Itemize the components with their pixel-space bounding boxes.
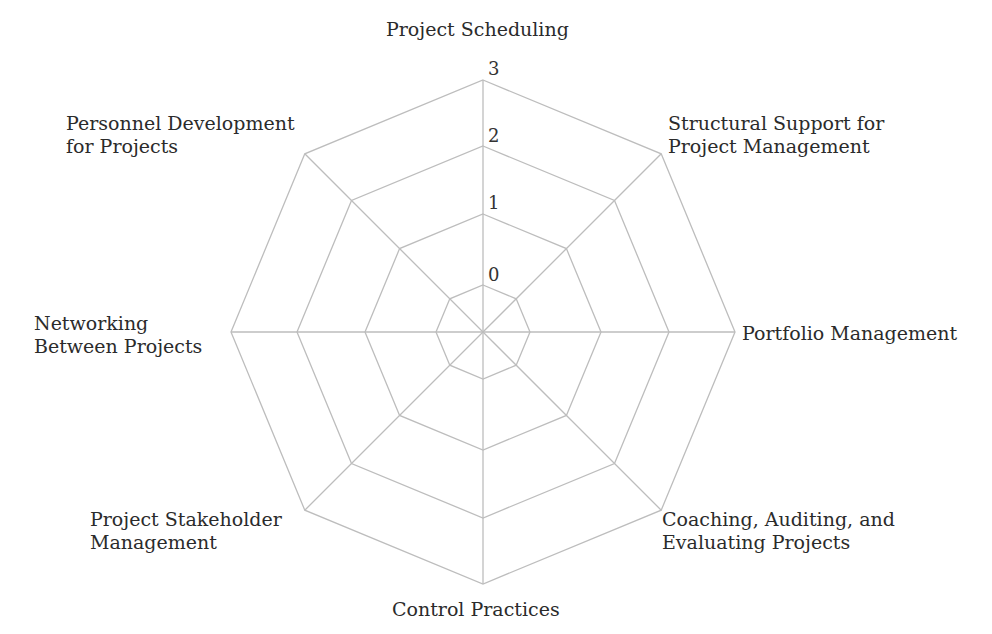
label-line: Between Projects [34,335,202,358]
tick-2: 2 [488,125,499,146]
radar-spoke [305,154,483,332]
label-line: Personnel Development [66,112,295,135]
label-line: Control Practices [392,598,560,621]
radar-spoke [483,332,661,510]
label-line: for Projects [66,135,295,158]
axis-label-control-practices: Control Practices [392,598,560,621]
axis-label-networking: Networking Between Projects [34,312,202,358]
label-line: Project Scheduling [386,18,569,41]
label-line: Project Stakeholder [90,508,282,531]
label-line: Structural Support for [668,112,884,135]
radar-spokes [231,80,735,584]
axis-label-personnel-development: Personnel Development for Projects [66,112,295,158]
axis-label-structural-support: Structural Support for Project Managemen… [668,112,884,158]
axis-label-coaching-auditing: Coaching, Auditing, and Evaluating Proje… [662,508,895,554]
tick-0: 0 [488,264,499,285]
radar-spoke [305,332,483,510]
label-line: Project Management [668,135,884,158]
label-line: Coaching, Auditing, and [662,508,895,531]
axis-label-portfolio-management: Portfolio Management [742,322,957,345]
tick-1: 1 [488,192,499,213]
label-line: Evaluating Projects [662,531,895,554]
radar-spoke [483,154,661,332]
label-line: Management [90,531,282,554]
tick-3: 3 [488,58,499,79]
label-line: Portfolio Management [742,322,957,345]
label-line: Networking [34,312,202,335]
axis-label-project-stakeholder: Project Stakeholder Management [90,508,282,554]
axis-label-project-scheduling: Project Scheduling [386,18,569,41]
